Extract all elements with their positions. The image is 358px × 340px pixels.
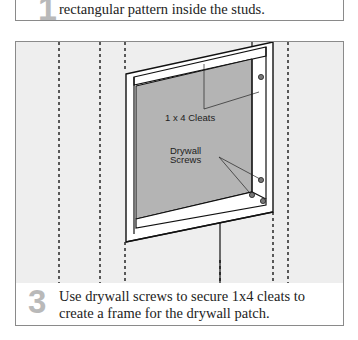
step-3-text-line2: create a frame for the drywall patch. bbox=[59, 305, 270, 322]
step-3-card: 1 x 4 Cleats Drywall Screws 3 Use drywal… bbox=[15, 41, 344, 326]
cleats-label: 1 x 4 Cleats bbox=[165, 113, 215, 123]
step-number-1: 1 bbox=[38, 0, 57, 25]
step-3-text-line1: Use drywall screws to secure 1x4 cleats … bbox=[59, 288, 305, 305]
cleat-frame-illustration: 1 x 4 Cleats Drywall Screws bbox=[16, 42, 343, 283]
step-number-3: 3 bbox=[28, 285, 46, 319]
previous-step-card: 1 rectangular pattern inside the studs. bbox=[15, 0, 344, 21]
previous-step-text: rectangular pattern inside the studs. bbox=[59, 1, 265, 18]
screws-label-line2: Screws bbox=[170, 155, 201, 165]
